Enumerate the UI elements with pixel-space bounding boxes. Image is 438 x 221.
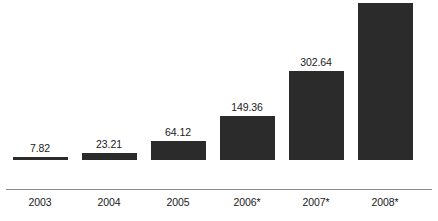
x-axis-tick-label: 2003 <box>6 196 74 208</box>
plot-area: 7.82 23.21 64.12 149.36 302.64 531.43 <box>0 0 438 191</box>
bar-chart: 7.82 23.21 64.12 149.36 302.64 531.43 20… <box>0 0 438 221</box>
bar-group: 531.43 <box>351 0 419 160</box>
x-axis-tick-label: 2008* <box>351 196 419 208</box>
x-axis-tick-label: 2007* <box>282 196 350 208</box>
bar-group: 23.21 <box>75 0 143 160</box>
bar-group: 7.82 <box>6 0 74 160</box>
x-axis-tick-label: 2005 <box>144 196 212 208</box>
x-axis-tick-label: 2006* <box>213 196 281 208</box>
bar-group: 302.64 <box>282 0 350 160</box>
bar[interactable] <box>220 116 275 160</box>
bar-value-label: 302.64 <box>282 56 350 68</box>
bar[interactable] <box>151 141 206 160</box>
x-axis-tick-label: 2004 <box>75 196 143 208</box>
bar[interactable] <box>289 71 344 160</box>
bar-value-label: 7.82 <box>6 142 74 154</box>
bar-group: 64.12 <box>144 0 212 160</box>
x-axis-baseline <box>6 189 432 190</box>
bar-value-label: 64.12 <box>144 126 212 138</box>
bar[interactable] <box>13 157 68 160</box>
bar-value-label: 149.36 <box>213 101 281 113</box>
bar[interactable] <box>82 153 137 160</box>
bar-value-label: 23.21 <box>75 138 143 150</box>
bar-group: 149.36 <box>213 0 281 160</box>
bar[interactable] <box>358 3 413 160</box>
